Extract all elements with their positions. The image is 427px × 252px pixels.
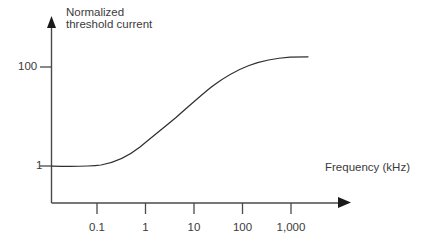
y-tick-label-100: 100	[18, 60, 37, 72]
x-tick-label-1000: 1,000	[277, 221, 306, 233]
y-axis-label-line1: Normalized	[66, 6, 124, 18]
x-tick-label-0.1: 0.1	[89, 221, 105, 233]
x-tick-label-1: 1	[142, 221, 148, 233]
y-tick-label-1: 1	[36, 159, 42, 171]
y-axis-label-line2: threshold current	[66, 18, 152, 30]
y-axis-label: Normalizedthreshold current	[66, 6, 152, 30]
x-tick-label-100: 100	[233, 221, 252, 233]
chart-background	[0, 0, 427, 252]
chart-figure	[0, 0, 427, 252]
x-tick-label-10: 10	[188, 221, 201, 233]
x-axis-label: Frequency (kHz)	[325, 161, 410, 173]
